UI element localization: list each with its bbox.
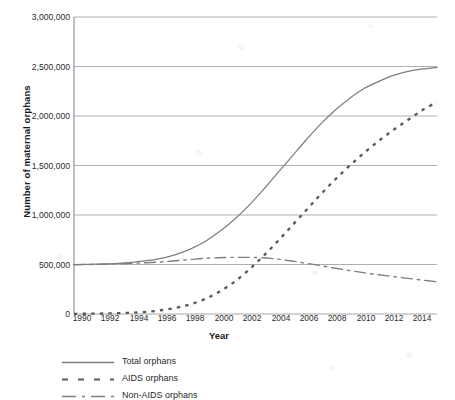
chart-figure: Number of maternal orphans Year 3,000,00… <box>0 0 455 400</box>
legend-label-total: Total orphans <box>122 356 176 366</box>
legend-key-dash-dot <box>60 388 116 400</box>
legend-key-dashed <box>60 371 116 388</box>
series-line-non-aids-orphans <box>74 257 437 281</box>
plot-area <box>0 0 455 400</box>
gridlines <box>74 17 437 314</box>
legend-item-total: Total orphans <box>60 354 360 371</box>
series-line-aids-orphans <box>74 102 437 314</box>
series-line-total-orphans <box>74 67 437 264</box>
legend-label-aids: AIDS orphans <box>122 373 178 383</box>
legend-label-non-aids: Non-AIDS orphans <box>122 390 198 400</box>
legend-item-aids: AIDS orphans <box>60 371 360 388</box>
data-series <box>74 67 437 313</box>
legend-key-solid <box>60 354 116 371</box>
legend-item-non-aids: Non-AIDS orphans <box>60 388 360 400</box>
chart-legend: Total orphans AIDS orphans Non-AIDS orph… <box>60 354 360 400</box>
